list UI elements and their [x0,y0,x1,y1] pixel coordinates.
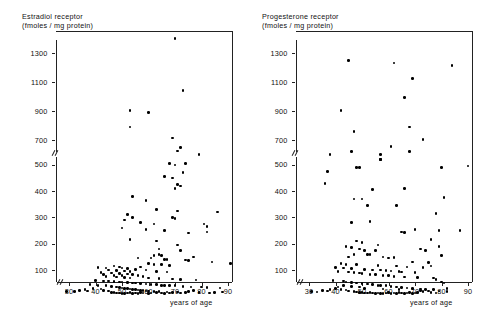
scatter-point [102,289,105,292]
scatter-point [145,199,148,202]
scatter-point [129,238,132,241]
scatter-point [361,198,364,201]
scatter-point [160,263,163,266]
y-axis-tick [292,53,295,54]
panel-estradiol: Estradiol receptor (fmoles / mg protein)… [0,0,240,316]
y-axis-tick [292,244,295,245]
y-axis-tick [292,191,295,192]
scatter-point [216,211,219,214]
scatter-point [414,271,417,274]
scatter-point [419,248,422,251]
scatter-point [438,245,441,248]
scatter-point [115,276,118,279]
panel-progesterone: Progesterone receptor (fmoles / mg prote… [240,0,481,316]
scatter-point [150,257,153,260]
scatter-point [377,264,380,267]
y-axis-label: 1300 [260,49,288,58]
y-axis-tick [52,217,55,218]
scatter-point [182,171,185,174]
scatter-point [89,283,92,286]
scatter-point [387,257,390,260]
scatter-point [350,267,353,270]
y-axis-tick [52,53,55,54]
scatter-point [390,270,393,273]
y-axis-label: 200 [20,239,48,248]
scatter-point [361,241,364,244]
scatter-point [403,187,406,190]
scatter-point [187,232,190,235]
scatter-point [411,77,414,80]
scatter-point [355,282,358,285]
scatter-point [171,291,174,294]
scatter-point [139,266,142,269]
scatter-point [379,269,382,272]
scatter-point [345,263,348,266]
x-axis-break-mark [58,279,65,286]
scatter-point [419,289,422,292]
scatter-point [350,221,353,224]
scatter-point [174,187,177,190]
scatter-point [105,275,108,278]
scatter-point [206,231,209,234]
scatter-point [411,261,414,264]
scatter-point [345,245,348,248]
scatter-point [379,158,382,161]
scatter-point [310,290,313,293]
scatter-point [121,227,124,230]
x-axis-tick [228,283,229,286]
scatter-point [158,248,161,251]
y-axis-label: 300 [260,213,288,222]
scatter-point [139,282,142,285]
x-axis-title: years of age [170,298,213,307]
scatter-point [107,269,110,272]
scatter-point [440,166,443,169]
scatter-point [155,283,158,286]
scatter-point [443,196,446,199]
scatter-point [206,286,209,289]
scatter-point [171,177,174,180]
scatter-point [166,271,169,274]
scatter-point [179,185,182,188]
scatter-point [192,289,195,292]
scatter-point [342,267,345,270]
scatter-point [187,259,190,262]
y-axis-label: 500 [260,160,288,169]
panel-title-line2: (fmoles / mg protein) [22,21,93,30]
scatter-point [187,290,190,293]
scatter-point [129,277,132,280]
plot-frame-top [56,31,233,32]
scatter-point [438,229,441,232]
scatter-point [440,254,443,257]
x-axis-break-mark [298,279,305,286]
scatter-point [347,256,350,259]
scatter-point [363,249,366,252]
scatter-point [371,283,374,286]
scatter-point [408,126,411,129]
y-axis-label: 900 [20,107,48,116]
y-axis-label: 500 [20,160,48,169]
scatter-point [340,262,343,265]
scatter-point [126,281,129,284]
scatter-point [353,253,356,256]
y-axis-label: 900 [260,107,288,116]
scatter-point [213,291,216,294]
scatter-point [385,269,388,272]
y-axis-tick [52,244,55,245]
scatter-point [155,270,158,273]
scatter-point [139,221,142,224]
scatter-point [416,276,419,279]
scatter-point [424,249,427,252]
scatter-point [123,270,126,273]
scatter-point [395,204,398,207]
panel-title-progesterone: Progesterone receptor (fmoles / mg prote… [262,12,339,31]
scatter-point [369,220,372,223]
scatter-point [179,278,182,281]
scatter-point [430,265,433,268]
plot-frame-right [232,31,233,283]
y-axis-upper-segment [56,40,57,153]
scatter-point [374,273,377,276]
scatter-point [347,59,350,62]
scatter-point [134,282,137,285]
scatter-point [422,138,425,141]
scatter-point [350,150,353,153]
